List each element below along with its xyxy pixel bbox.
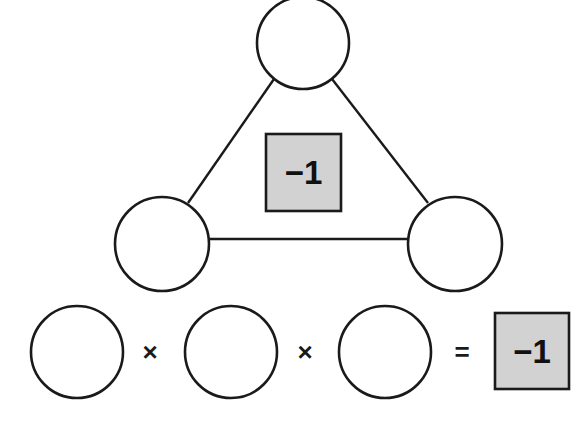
equation-row: × × = −1 [31, 306, 569, 398]
edge-top-right [332, 79, 428, 203]
equation-factor-3[interactable] [339, 306, 431, 398]
multiply-sign-2: × [297, 337, 312, 367]
triangle-node-bottom-right[interactable] [408, 197, 502, 291]
triangle-center-value: −1 [285, 154, 323, 191]
equation-result-box: −1 [495, 313, 569, 389]
multiply-sign-1: × [142, 337, 157, 367]
product-triangle-puzzle: −1 × × = −1 [0, 0, 579, 440]
triangle-node-bottom-left[interactable] [115, 197, 209, 291]
equation-factor-2[interactable] [185, 306, 277, 398]
triangle-node-top[interactable] [257, 0, 349, 89]
edge-top-left [188, 79, 274, 203]
triangle-center-box: −1 [266, 134, 341, 211]
equation-result-value: −1 [513, 333, 551, 370]
equals-sign: = [454, 337, 469, 367]
equation-factor-1[interactable] [31, 306, 123, 398]
